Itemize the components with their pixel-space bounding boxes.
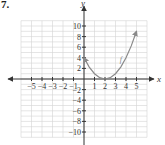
y-tick-label: −2: [72, 86, 81, 95]
axes: xy: [8, 0, 161, 145]
y-axis-label: y: [80, 0, 85, 8]
series: f: [84, 31, 137, 79]
y-tick-label: 8: [77, 33, 81, 42]
y-tick-label: 6: [77, 43, 81, 52]
x-tick-label: −5: [27, 82, 36, 91]
chart: xy −5−4−3−2−112345−10−8−6−4−2246810 f: [0, 0, 165, 145]
series-line-f: [84, 31, 137, 79]
x-axis-label: x: [156, 74, 161, 84]
x-tick-label: 2: [103, 82, 107, 91]
y-tick-label: 2: [77, 64, 81, 73]
x-tick-label: −4: [38, 82, 47, 91]
y-tick-label: −8: [72, 117, 81, 126]
x-tick-label: 4: [124, 82, 128, 91]
x-tick-label: 1: [93, 82, 97, 91]
y-tick-label: −10: [68, 128, 81, 137]
x-tick-label: −3: [48, 82, 57, 91]
x-tick-label: 5: [135, 82, 139, 91]
x-tick-label: −2: [59, 82, 68, 91]
y-tick-label: −6: [72, 107, 81, 116]
y-tick-label: 4: [77, 54, 81, 63]
x-tick-label: 3: [114, 82, 118, 91]
y-tick-label: −4: [72, 96, 81, 105]
y-tick-label: 10: [73, 22, 81, 31]
